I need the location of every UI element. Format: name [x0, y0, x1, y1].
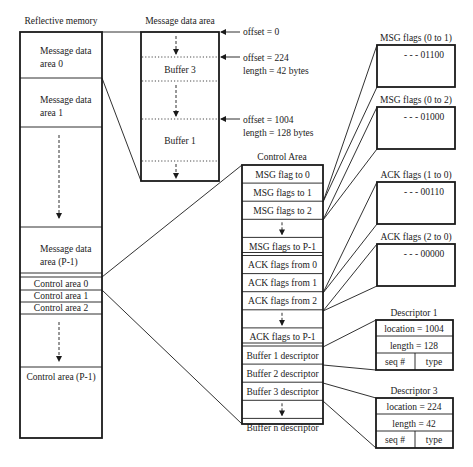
- descriptor-seq: seq #: [385, 435, 405, 445]
- control-area-2: Control area 2: [34, 303, 89, 313]
- buffer-3-label: Buffer 3: [164, 65, 196, 75]
- offset-label: offset = 224: [243, 53, 289, 63]
- control-row-label: MSG flag to 0: [255, 170, 310, 180]
- descriptor-1: Descriptor 1 location = 1004 length = 12…: [376, 308, 453, 370]
- reflective-memory-diagram: Reflective memory Message data area 0 Me…: [0, 0, 473, 467]
- flag-bits: - - - 01000: [404, 112, 445, 122]
- control-row-label: Buffer n descriptor: [246, 423, 319, 433]
- offset-label: offset = 1004: [243, 115, 294, 125]
- control-row-label: ACK flags from 0: [248, 260, 317, 270]
- area-label: area 1: [40, 108, 63, 118]
- descriptor-location: location = 1004: [384, 324, 444, 334]
- flag-box-ack-2-to-0: ACK flags (2 to 0) - - - 00000: [377, 232, 455, 286]
- control-area-1: Control area 1: [34, 291, 89, 301]
- control-row-label: Buffer 3 descriptor: [246, 387, 319, 397]
- control-row-label: ACK flags from 2: [248, 296, 317, 306]
- control-row-label: MSG flags to 2: [253, 206, 312, 216]
- control-row-label: MSG flags to 1: [253, 188, 312, 198]
- connector-line: [323, 320, 376, 347]
- control-area: Control Area MSG flag to 0MSG flags to 1…: [242, 152, 323, 433]
- area-label: area 0: [40, 59, 63, 69]
- descriptor-location: location = 224: [387, 402, 442, 412]
- area-label: Message data: [40, 95, 92, 105]
- flag-bits: - - - 00110: [404, 187, 444, 197]
- area-label: Message data: [40, 46, 92, 56]
- control-area-title: Control Area: [257, 152, 307, 162]
- message-data-area-title: Message data area: [145, 16, 215, 26]
- descriptor-length: length = 42: [392, 419, 436, 429]
- length-label: length = 42 bytes: [243, 66, 309, 76]
- reflective-memory-title: Reflective memory: [24, 16, 97, 26]
- length-label: length = 128 bytes: [243, 128, 314, 138]
- message-data-area: Message data area Buffer 3 Buffer 1: [141, 16, 219, 181]
- flag-box-msg-0-to-2: MSG flags (0 to 2) - - - 01000: [377, 95, 455, 149]
- message-data-area-0: Message data area 0: [40, 46, 92, 69]
- connector-line: [323, 401, 376, 448]
- connector-line: [323, 383, 376, 398]
- flag-box-title: ACK flags (1 to 0): [380, 170, 451, 181]
- message-data-area-p-1: Message data area (P-1): [40, 244, 92, 268]
- message-data-area-1: Message data area 1: [40, 95, 92, 118]
- connector-line: [323, 182, 377, 293]
- flag-bits: - - - 01100: [404, 50, 444, 60]
- control-row-label: MSG flags to P-1: [249, 242, 316, 252]
- descriptor-3: Descriptor 3 location = 224 length = 42 …: [376, 386, 453, 448]
- connector-line: [102, 78, 141, 181]
- descriptor-title: Descriptor 3: [390, 386, 437, 396]
- area-label: Message data: [40, 244, 92, 254]
- connector-line: [102, 290, 242, 424]
- control-row-label: ACK flags from 1: [248, 278, 317, 288]
- descriptor-type: type: [426, 435, 442, 445]
- flag-box-title: MSG flags (0 to 2): [380, 95, 452, 106]
- connector-line: [323, 224, 377, 293]
- buffer-1-label: Buffer 1: [164, 136, 196, 146]
- message-data-area-box: [141, 32, 219, 181]
- connector-line: [323, 365, 376, 370]
- control-row-label: Buffer 1 descriptor: [246, 351, 319, 361]
- flag-connectors: [323, 45, 377, 448]
- control-area-box: [242, 165, 323, 424]
- descriptor-seq: seq #: [385, 357, 405, 367]
- offset-annotations: offset = 0 offset = 224 length = 42 byte…: [221, 27, 314, 138]
- descriptor-length: length = 128: [390, 341, 438, 351]
- control-area-p-1: Control area (P-1): [26, 372, 95, 383]
- flag-box-title: ACK flags (2 to 0): [380, 232, 451, 243]
- descriptor-title: Descriptor 1: [390, 308, 437, 318]
- descriptor-type: type: [426, 357, 442, 367]
- flag-box-ack-1-to-0: ACK flags (1 to 0) - - - 00110: [377, 170, 455, 224]
- control-area-0: Control area 0: [34, 279, 89, 289]
- offset-label: offset = 0: [243, 27, 280, 37]
- connector-line: [323, 244, 377, 311]
- flag-box-title: MSG flags (0 to 1): [380, 33, 452, 44]
- connector-line: [323, 286, 377, 311]
- control-row-label: Buffer 2 descriptor: [246, 369, 319, 379]
- reflective-memory: Reflective memory Message data area 0 Me…: [20, 16, 102, 438]
- flag-box-msg-0-to-1: MSG flags (0 to 1) - - - 01100: [377, 33, 455, 87]
- control-row-label: ACK flags to P-1: [249, 332, 315, 342]
- area-label: area (P-1): [40, 257, 78, 268]
- flag-bits: - - - 00000: [404, 249, 445, 259]
